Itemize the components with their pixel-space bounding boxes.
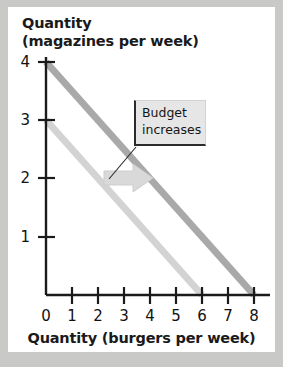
y-tick-label-3: 3 — [14, 111, 30, 129]
budget-shift-arrow — [104, 164, 153, 192]
x-tick-label-5: 5 — [167, 307, 185, 325]
x-tick-label-6: 6 — [193, 307, 211, 325]
callout-text-line2: increases — [142, 122, 205, 139]
x-tick-label-2: 2 — [89, 307, 107, 325]
y-tick-label-4: 4 — [14, 53, 30, 71]
y-tick-label-2: 2 — [14, 169, 30, 187]
budget-increases-callout: Budget increases — [134, 100, 206, 146]
chart-canvas: Quantity (magazines per week) — [8, 7, 275, 352]
budget-constraint-plot — [8, 7, 275, 352]
x-tick-label-0: 0 — [37, 307, 55, 325]
x-tick-label-8: 8 — [245, 307, 263, 325]
plot-area: 4 3 2 1 0 1 2 3 4 5 6 7 8 Budget increas… — [8, 7, 275, 352]
x-tick-label-3: 3 — [115, 307, 133, 325]
chart-figure: Quantity (magazines per week) — [0, 0, 283, 367]
x-tick-label-1: 1 — [63, 307, 81, 325]
x-tick-label-7: 7 — [219, 307, 237, 325]
callout-text-line1: Budget — [142, 105, 205, 122]
x-axis-label: Quantity (burgers per week) — [28, 330, 256, 346]
y-tick-label-1: 1 — [14, 228, 30, 246]
x-tick-label-4: 4 — [141, 307, 159, 325]
